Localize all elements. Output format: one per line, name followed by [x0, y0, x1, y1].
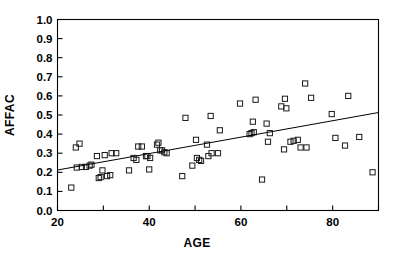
data-point-marker: [73, 145, 78, 150]
data-point-marker: [154, 142, 159, 147]
y-tick-label: 0.5: [37, 109, 54, 121]
plot-canvas: 20406080 0.00.10.20.30.40.50.60.70.80.91…: [0, 0, 395, 255]
data-point-marker: [304, 145, 309, 150]
y-axis-ticks: [58, 20, 63, 211]
data-point-marker: [333, 135, 338, 140]
data-point-marker: [298, 145, 303, 150]
data-point-marker: [342, 143, 347, 148]
data-point-marker: [193, 137, 198, 142]
plot-frame: [58, 20, 379, 211]
data-point-marker: [147, 167, 152, 172]
data-point-marker: [357, 134, 362, 139]
regression-line: [58, 113, 379, 170]
data-point-marker: [250, 119, 255, 124]
data-point-marker: [346, 93, 351, 98]
data-point-marker: [281, 147, 286, 152]
x-tick-label: 40: [143, 216, 156, 228]
x-axis-tick-labels: 20406080: [51, 216, 339, 228]
y-tick-label: 0.8: [37, 52, 54, 64]
data-point-marker: [303, 81, 308, 86]
data-point-marker: [190, 163, 195, 168]
y-tick-label: 0.3: [37, 147, 53, 159]
data-point-marker: [253, 97, 258, 102]
data-point-marker: [208, 113, 213, 118]
data-point-marker: [102, 153, 107, 158]
y-tick-label: 0.1: [37, 185, 54, 197]
data-point-marker: [237, 101, 242, 106]
y-axis-tick-labels: 0.00.10.20.30.40.50.60.70.80.91.0: [37, 14, 54, 217]
data-point-marker: [139, 144, 144, 149]
x-tick-label: 60: [235, 216, 248, 228]
data-point-marker: [215, 151, 220, 156]
data-point-marker: [126, 168, 131, 173]
data-point-marker: [183, 115, 188, 120]
data-point-marker: [69, 185, 74, 190]
data-point-marker: [136, 144, 141, 149]
data-point-marker: [264, 121, 269, 126]
data-point-marker: [100, 168, 105, 173]
data-point-marker: [279, 104, 284, 109]
y-tick-label: 0.7: [37, 71, 53, 83]
data-point-marker: [259, 177, 264, 182]
data-point-marker: [77, 141, 82, 146]
data-point-marker: [265, 139, 270, 144]
data-point-marker: [180, 174, 185, 179]
y-axis-title: AFFAC: [3, 94, 17, 136]
x-tick-label: 80: [326, 216, 339, 228]
x-tick-label: 20: [51, 216, 64, 228]
data-point-marker: [282, 96, 287, 101]
x-axis-ticks: [58, 206, 379, 211]
y-tick-label: 0.4: [37, 128, 54, 140]
axes-frame: [58, 20, 379, 211]
data-point-marker: [370, 170, 375, 175]
data-points-group: [69, 81, 375, 190]
y-tick-label: 1.0: [37, 14, 53, 26]
data-point-marker: [329, 111, 334, 116]
y-tick-label: 0.9: [37, 33, 53, 45]
y-tick-label: 0.0: [37, 205, 53, 217]
data-point-marker: [74, 165, 79, 170]
y-tick-label: 0.6: [37, 90, 53, 102]
data-point-marker: [217, 128, 222, 133]
x-axis-title: AGE: [183, 236, 210, 250]
data-point-marker: [94, 153, 99, 158]
y-tick-label: 0.2: [37, 166, 53, 178]
data-point-marker: [308, 95, 313, 100]
regression-line-segment: [58, 113, 379, 170]
data-point-marker: [284, 106, 289, 111]
scatter-plot-figure: 20406080 0.00.10.20.30.40.50.60.70.80.91…: [0, 0, 395, 255]
data-point-marker: [156, 140, 161, 145]
